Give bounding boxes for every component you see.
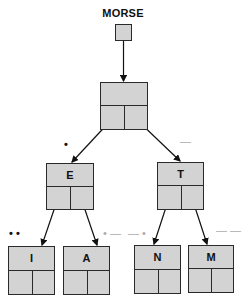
morse-pointer-box	[115, 24, 132, 41]
node-label: I	[9, 247, 54, 271]
node-divider	[181, 186, 182, 209]
tree-node-root	[100, 82, 148, 130]
node-divider	[158, 270, 159, 294]
code-e: •	[64, 138, 68, 150]
node-label: T	[158, 163, 203, 186]
node-label: M	[189, 246, 233, 269]
code-n: — •	[128, 227, 146, 239]
node-label: A	[64, 247, 109, 271]
tree-node-e: E	[46, 163, 94, 210]
code-a: • —	[103, 227, 121, 239]
node-label: N	[135, 246, 180, 270]
tree-node-i: I	[8, 246, 55, 295]
tree-node-n: N	[134, 245, 181, 294]
tree-node-t: T	[157, 162, 204, 210]
node-divider	[211, 269, 212, 292]
node-label: E	[47, 164, 93, 187]
tree-node-a: A	[63, 246, 110, 295]
node-label	[101, 83, 147, 106]
node-divider	[32, 271, 33, 295]
tree-node-m: M	[188, 245, 234, 293]
node-divider	[87, 271, 88, 295]
code-t: —	[180, 135, 191, 147]
node-divider	[70, 187, 71, 210]
code-i: • •	[9, 227, 20, 239]
code-m: — —	[216, 224, 241, 236]
node-divider	[124, 106, 125, 129]
